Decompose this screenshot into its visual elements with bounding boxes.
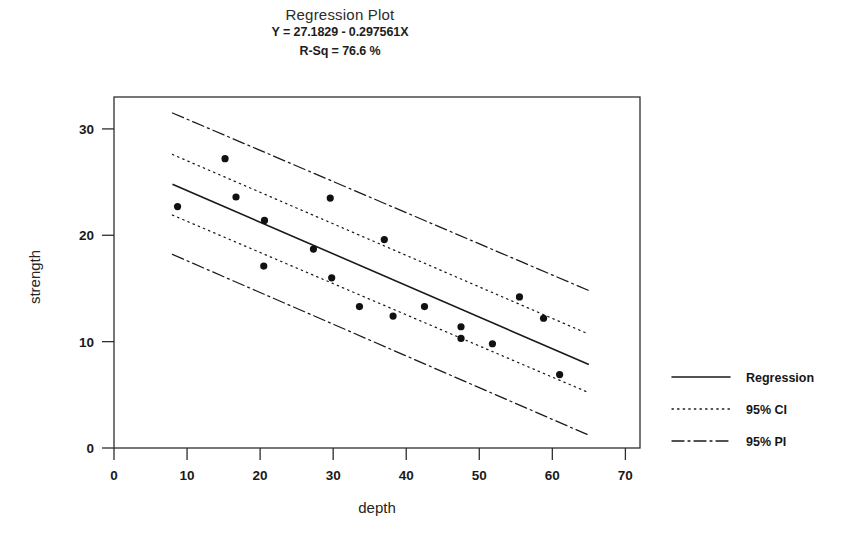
y-tick-label: 0 [86,441,94,456]
y-axis-ticks: 0102030 [79,122,114,456]
data-point [457,335,464,342]
x-tick-label: 20 [253,468,268,483]
regression-line [172,184,588,364]
data-point [457,323,464,330]
ci-line-lower [172,215,588,393]
data-point [381,236,388,243]
data-points [174,155,563,378]
data-point [310,246,317,253]
y-tick-label: 20 [79,228,94,243]
y-axis-label: strength [26,250,43,304]
y-tick-label: 10 [79,335,94,350]
legend-label: 95% PI [746,435,786,449]
data-point [516,293,523,300]
data-point [221,155,228,162]
data-point [261,217,268,224]
data-point [327,194,334,201]
x-tick-label: 40 [399,468,414,483]
pi-line-upper [172,113,588,291]
x-axis-ticks: 010203040506070 [110,448,633,483]
data-point [540,315,547,322]
pi-line-lower [172,254,588,435]
x-tick-label: 0 [110,468,118,483]
data-point [356,303,363,310]
data-point [232,193,239,200]
data-point [489,340,496,347]
data-point [556,371,563,378]
x-tick-label: 70 [618,468,633,483]
x-axis-label: depth [358,499,396,516]
y-tick-label: 30 [79,122,94,137]
x-tick-label: 60 [545,468,560,483]
data-point [328,274,335,281]
regression-chart-svg: 0102030 010203040506070 depth strength R… [0,0,841,545]
data-point [260,263,267,270]
ci-line-upper [172,154,588,334]
data-point [389,313,396,320]
x-tick-label: 10 [180,468,195,483]
x-tick-label: 50 [472,468,487,483]
legend-label: 95% CI [746,403,787,417]
legend: Regression95% CI95% PI [672,371,814,449]
x-tick-label: 30 [326,468,341,483]
data-point [421,303,428,310]
legend-label: Regression [746,371,814,385]
regression-plot-page: Regression Plot Y = 27.1829 - 0.297561X … [0,0,841,545]
data-point [174,203,181,210]
